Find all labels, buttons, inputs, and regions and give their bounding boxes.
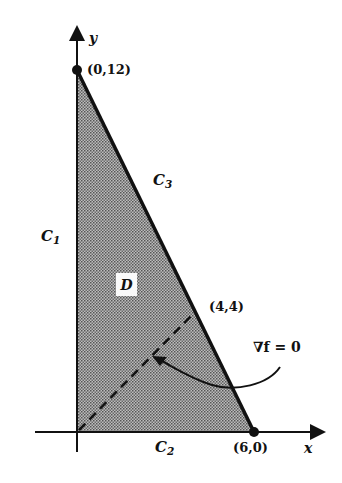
point-label-4-4: (4,4) [209,300,244,313]
y-axis-arrow-icon [69,25,85,41]
x-axis-arrow-icon [310,424,326,440]
y-axis-label: y [89,31,97,45]
region-label-box: D [116,273,137,296]
point-label-6-0: (6,0) [233,441,268,454]
point-6-0 [249,427,259,437]
point-label-0-12: (0,12) [87,63,131,76]
point-0-12 [72,65,82,75]
curve-label-c3: C3 [153,173,172,189]
region-label: D [120,278,132,292]
curve-label-c1: C1 [41,229,60,245]
gradient-zero-annotation: ∇f = 0 [253,340,301,354]
curve-label-c2: C2 [155,440,174,456]
x-axis-label: x [304,441,312,455]
